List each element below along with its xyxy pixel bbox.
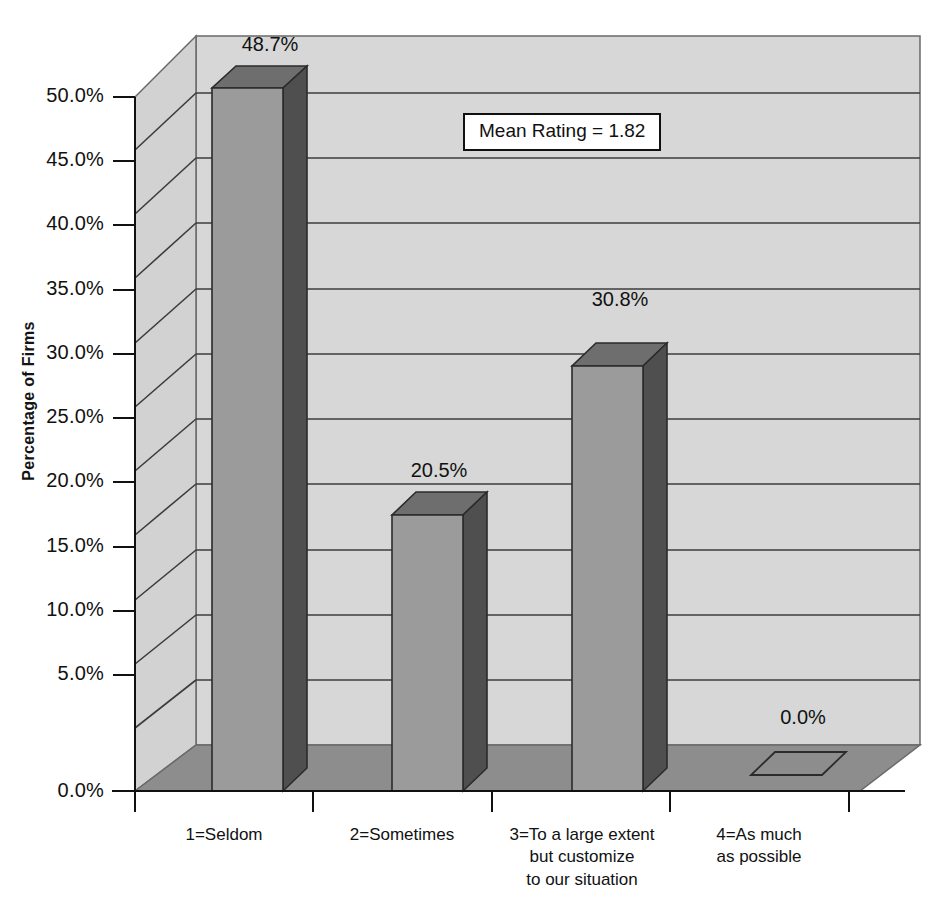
- y-tick-dash-45: [113, 160, 135, 162]
- bar-1-front: [212, 88, 283, 791]
- mean-rating-box: Mean Rating = 1.82: [463, 113, 661, 151]
- bar-2-sometimes: [392, 492, 487, 791]
- x-tick-label-3: 3=To a large extent but customize to our…: [496, 824, 668, 891]
- y-tick-label-35: 35.0%: [8, 277, 104, 300]
- y-tick-dash-50: [113, 96, 135, 98]
- bar-3-front: [572, 366, 643, 791]
- y-tick-label-50: 50.0%: [8, 84, 104, 107]
- bar-1-side: [283, 66, 307, 791]
- bar-2-side: [463, 492, 487, 791]
- y-axis-title: Percentage of Firms: [20, 306, 38, 496]
- y-tick-dash-25: [113, 417, 135, 419]
- chart-3d-scene: 50.0% 45.0% 40.0% 35.0% 30.0% 25.0% 20.0…: [0, 0, 944, 905]
- y-tick-label-0: 0.0%: [8, 779, 104, 802]
- y-tick-label-10: 10.0%: [8, 598, 104, 621]
- y-tick-dash-40: [113, 224, 135, 226]
- y-tick-label-45: 45.0%: [8, 148, 104, 171]
- data-label-bar-3: 30.8%: [565, 288, 675, 311]
- x-tick-label-4: 4=As much as possible: [689, 824, 829, 869]
- y-tick-label-15: 15.0%: [8, 534, 104, 557]
- data-label-bar-1: 48.7%: [215, 33, 325, 56]
- x-tick-label-2: 2=Sometimes: [332, 824, 472, 846]
- y-tick-dash-5: [113, 674, 135, 676]
- y-tick-dash-35: [113, 289, 135, 291]
- chart-figure: 50.0% 45.0% 40.0% 35.0% 30.0% 25.0% 20.0…: [0, 0, 944, 905]
- y-tick-label-5: 5.0%: [8, 662, 104, 685]
- y-tick-dash-15: [113, 546, 135, 548]
- left-wall: [135, 36, 196, 791]
- data-label-bar-2: 20.5%: [384, 459, 494, 482]
- y-tick-dash-20: [113, 481, 135, 483]
- y-tick-label-40: 40.0%: [8, 212, 104, 235]
- bar-3-large-extent: [572, 343, 667, 791]
- x-tick-label-1: 1=Seldom: [154, 824, 294, 846]
- bar-3-side: [643, 343, 667, 791]
- x-axis-ticks: [135, 791, 849, 812]
- data-label-bar-4: 0.0%: [748, 706, 858, 729]
- y-tick-dash-10: [113, 610, 135, 612]
- bar-2-front: [392, 515, 463, 791]
- bar-1-seldom: [212, 66, 307, 791]
- y-tick-dash-30: [113, 353, 135, 355]
